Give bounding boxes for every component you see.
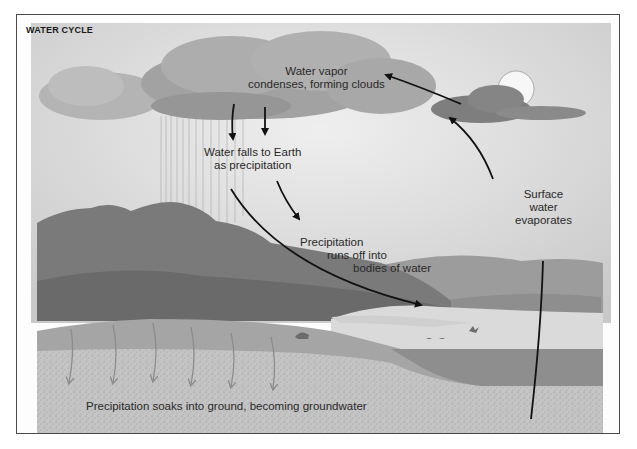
diagram-title: WATER CYCLE <box>26 25 93 35</box>
label-runoff: Precipitation runs off into bodies of wa… <box>300 236 431 275</box>
label-condensation: Water vapor condenses, forming clouds <box>248 65 385 91</box>
label-groundwater: Precipitation soaks into ground, becomin… <box>86 400 367 413</box>
label-precipitation: Water falls to Earth as precipitation <box>204 146 301 172</box>
label-evaporation: Surface water evaporates <box>515 188 572 227</box>
